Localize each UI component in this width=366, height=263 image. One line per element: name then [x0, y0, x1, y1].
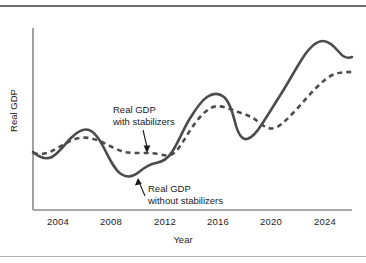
annotation-arrow-without-stabilizers-shaft — [140, 184, 145, 196]
figure-container: 2004 2008 2012 2016 2020 2024 Year Real … — [0, 0, 366, 263]
x-axis-title: Year — [0, 234, 366, 245]
annotation-without-stabilizers: Real GDP without stabilizers — [148, 183, 223, 206]
x-tick-label-2008: 2008 — [91, 216, 131, 227]
annotation-without-stabilizers-line1: Real GDP — [148, 183, 223, 195]
x-tick-label-2020: 2020 — [251, 216, 291, 227]
x-tick-label-2012: 2012 — [145, 216, 185, 227]
x-tick-label-2024: 2024 — [305, 216, 345, 227]
annotation-arrow-with-stabilizers-shaft — [143, 130, 147, 147]
annotation-with-stabilizers-line1: Real GDP — [113, 104, 175, 116]
y-axis-title: Real GDP — [8, 76, 19, 146]
annotation-without-stabilizers-line2: without stabilizers — [148, 195, 223, 207]
annotation-with-stabilizers-line2: with stabilizers — [113, 116, 175, 128]
annotation-with-stabilizers: Real GDP with stabilizers — [113, 104, 175, 127]
x-tick-label-2016: 2016 — [198, 216, 238, 227]
bottom-divider-rule — [0, 256, 366, 257]
x-tick-label-2004: 2004 — [38, 216, 78, 227]
series-line-without-stabilizers — [33, 41, 352, 176]
